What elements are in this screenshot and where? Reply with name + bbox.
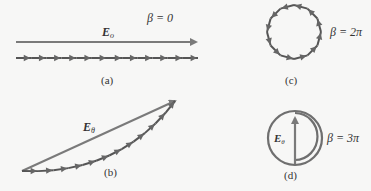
panel-d: Eθ β = 3π (d) (268, 111, 360, 182)
resultant-label-a: Eo (101, 25, 114, 40)
phasor-diagram: Eo β = 0 (a) Eθ (b) β = 2π (c) Eθ β = 3π… (0, 0, 371, 191)
phasor-chain-a (16, 55, 198, 61)
beta-label-a: β = 0 (146, 11, 173, 25)
panel-c: β = 2π (c) (266, 4, 363, 87)
phasor-arrowhead-a-7 (130, 55, 136, 61)
phasor-arrowhead-a-8 (145, 55, 151, 61)
phasor-arrowhead-a-5 (100, 55, 106, 61)
panel-a: Eo β = 0 (a) (16, 11, 198, 87)
phasor-arrowhead-a-11 (191, 55, 197, 61)
phasor-arrowhead-a-6 (115, 55, 121, 61)
panel-b: Eθ (b) (22, 101, 175, 179)
caption-c: (c) (285, 74, 298, 87)
phasor-arrowhead-a-0 (24, 55, 30, 61)
phasor-arrowhead-b-1 (46, 167, 53, 173)
beta-label-c: β = 2π (329, 25, 363, 39)
phasor-arrowhead-a-3 (69, 55, 75, 61)
phasor-arrowhead-b-0 (31, 168, 37, 174)
caption-b: (b) (104, 166, 117, 179)
phasor-arrowhead-a-9 (160, 55, 166, 61)
phasor-chain-c (266, 4, 323, 61)
phasor-arrowhead-b-3 (75, 163, 82, 169)
resultant-label-d: Eθ (273, 132, 285, 146)
beta-label-d: β = 3π (326, 131, 360, 145)
caption-a: (a) (101, 74, 114, 87)
phasor-arrowhead-a-4 (84, 55, 90, 61)
phasor-arrowhead-a-2 (54, 55, 60, 61)
phasor-arrowhead-a-1 (39, 55, 45, 61)
caption-d: (d) (284, 169, 297, 182)
phasor-arrowhead-a-10 (175, 55, 181, 61)
resultant-label-b: Eθ (82, 120, 95, 135)
